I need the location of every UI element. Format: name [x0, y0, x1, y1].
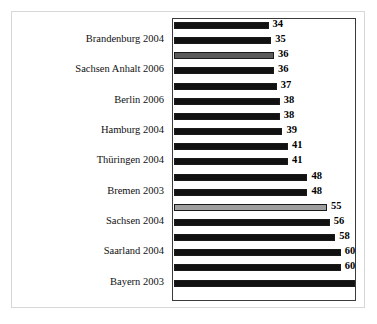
- bar-value-label: 48: [311, 185, 322, 196]
- bar-value-label: 56: [334, 215, 345, 226]
- bar[interactable]: [174, 204, 327, 211]
- bar[interactable]: [174, 249, 341, 256]
- category-label: Berlin 2006: [114, 94, 164, 106]
- bar[interactable]: [174, 234, 335, 241]
- bar[interactable]: [174, 280, 355, 287]
- bar[interactable]: [174, 264, 341, 271]
- bar-row: 58: [173, 232, 355, 243]
- bar-value-label: 41: [292, 139, 303, 150]
- bar-value-label: 36: [278, 63, 289, 74]
- bar-value-label: 41: [292, 154, 303, 165]
- bar[interactable]: [174, 83, 277, 90]
- bar-row: 60: [173, 247, 355, 258]
- bar-row: 35: [173, 35, 355, 46]
- bar-row: 65: [173, 278, 355, 289]
- bar-value-label: 58: [339, 230, 350, 241]
- bar-value-label: 39: [286, 124, 297, 135]
- bottom-clipped-caption: [4, 316, 204, 324]
- bars-layer: 343536363738383941414848555658606065: [173, 19, 355, 300]
- bar-row: 36: [173, 65, 355, 76]
- plot-area: 343536363738383941414848555658606065: [172, 18, 356, 301]
- bar-row: 56: [173, 217, 355, 228]
- bar-value-label: 34: [273, 18, 284, 29]
- bar-row: 41: [173, 141, 355, 152]
- category-label: Bremen 2003: [107, 185, 164, 197]
- bar[interactable]: [174, 113, 280, 120]
- bar-value-label: 35: [275, 33, 286, 44]
- bar-value-label: 55: [331, 200, 342, 211]
- category-label: Bayern 2003: [110, 276, 164, 288]
- category-label: Thüringen 2004: [97, 154, 164, 166]
- bar[interactable]: [174, 174, 307, 181]
- bar[interactable]: [174, 189, 307, 196]
- category-label: Hamburg 2004: [101, 124, 164, 136]
- bar-row: 34: [173, 20, 355, 31]
- bar[interactable]: [174, 143, 288, 150]
- category-label: Brandenburg 2004: [86, 33, 164, 45]
- category-axis-labels: Brandenburg 2004Sachsen Anhalt 2006Berli…: [0, 18, 168, 301]
- bar-row: 38: [173, 111, 355, 122]
- bar-value-label: 60: [345, 260, 356, 271]
- bar-value-label: 48: [311, 170, 322, 181]
- category-label: Sachsen Anhalt 2006: [75, 63, 164, 75]
- bar-value-label: 38: [284, 109, 295, 120]
- bar-row: 48: [173, 172, 355, 183]
- bar[interactable]: [174, 67, 274, 74]
- bar[interactable]: [174, 22, 269, 29]
- category-label: Saarland 2004: [104, 245, 164, 257]
- bar-row: 60: [173, 262, 355, 273]
- bar-value-label: 37: [281, 79, 292, 90]
- bar-row: 37: [173, 81, 355, 92]
- bar-row: 55: [173, 202, 355, 213]
- bar[interactable]: [174, 158, 288, 165]
- bar-row: 48: [173, 187, 355, 198]
- bar[interactable]: [174, 219, 330, 226]
- bar-value-label: 36: [278, 48, 289, 59]
- bar-row: 38: [173, 96, 355, 107]
- bar[interactable]: [174, 98, 280, 105]
- bar-row: 36: [173, 50, 355, 61]
- category-label: Sachsen 2004: [106, 215, 164, 227]
- bar-value-label: 38: [284, 94, 295, 105]
- bar[interactable]: [174, 128, 282, 135]
- bar-row: 41: [173, 156, 355, 167]
- bar-value-label: 60: [345, 245, 356, 256]
- bar-chart-figure: Brandenburg 2004Sachsen Anhalt 2006Berli…: [0, 0, 377, 324]
- bar-row: 39: [173, 126, 355, 137]
- bar[interactable]: [174, 37, 271, 44]
- bar[interactable]: [174, 52, 274, 59]
